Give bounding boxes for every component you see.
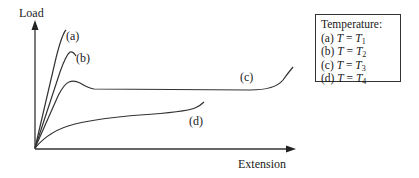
curve-d-label: (d) [189, 115, 203, 127]
legend-item-d: (d) T = T4 [321, 72, 395, 86]
curve-c-label: (c) [240, 71, 253, 83]
curve-a-label: (a) [66, 30, 79, 42]
legend-title: Temperature: [321, 18, 395, 32]
y-axis-arrow-icon [32, 20, 39, 30]
legend-box: Temperature: (a) T = T1 (b) T = T2 (c) T… [315, 14, 401, 82]
x-axis-label: Extension [238, 158, 286, 170]
legend-item-b: (b) T = T2 [321, 45, 395, 59]
curve-d [35, 102, 204, 148]
x-axis-arrow-icon [286, 146, 296, 153]
y-axis-label: Load [19, 7, 44, 19]
curve-b-label: (b) [76, 52, 90, 64]
curve-c [35, 67, 293, 148]
legend-item-a: (a) T = T1 [321, 32, 395, 46]
legend-item-c: (c) T = T3 [321, 59, 395, 73]
